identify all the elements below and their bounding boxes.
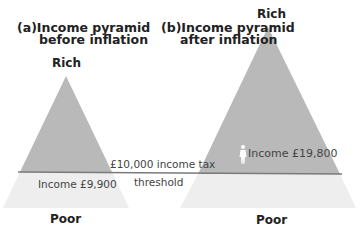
- threshold-label-line2: threshold: [134, 176, 183, 188]
- panel-a-income-label: Income £9,900: [38, 178, 117, 190]
- panel-b-title-line2: after inflation: [180, 33, 277, 47]
- panel-a-rich-label: Rich: [52, 56, 81, 70]
- pyramid-b-lower: [180, 174, 356, 208]
- pyramid-a-upper: [20, 76, 112, 172]
- panel-b-income-label: Income £19,800: [248, 147, 337, 160]
- panel-b-poor-label: Poor: [256, 213, 287, 227]
- threshold-label-line1: £10,000 income tax: [110, 158, 215, 170]
- panel-a-poor-label: Poor: [50, 212, 81, 226]
- panel-b-rich-label: Rich: [257, 7, 286, 21]
- panel-a-title-line2: before inflation: [39, 33, 148, 47]
